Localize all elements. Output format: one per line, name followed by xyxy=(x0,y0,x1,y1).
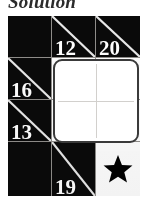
clue-number-13: 13 xyxy=(11,122,32,142)
answer-block-horizontal-line xyxy=(58,101,134,102)
clue-number-20: 20 xyxy=(99,38,120,58)
grid-cell-r4c3-star xyxy=(96,142,140,196)
clue-number-16: 16 xyxy=(11,80,32,100)
puzzle-figure: 12 20 16 13 xyxy=(8,16,140,196)
grid-cell-r3c1-clue-13: 13 xyxy=(8,100,52,142)
answer-block xyxy=(53,59,139,143)
clue-number-19: 19 xyxy=(55,177,76,196)
grid-cell-r1c3-clue-20: 20 xyxy=(96,16,140,58)
clue-number-12: 12 xyxy=(55,38,76,58)
grid-cell-r1c1 xyxy=(8,16,52,58)
grid-cell-r4c1 xyxy=(8,142,52,196)
grid-cell-r2c1-clue-16: 16 xyxy=(8,58,52,100)
grid-cell-r1c2-clue-12: 12 xyxy=(52,16,96,58)
grid-cell-r4c2-clue-19: 19 xyxy=(52,142,96,196)
page-title: Solution xyxy=(8,0,138,13)
star-icon xyxy=(103,154,133,184)
